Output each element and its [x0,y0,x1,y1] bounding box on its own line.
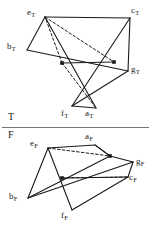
vertex-label-a_F: aF [85,132,93,141]
edge-n1_F-g_F [110,156,133,162]
vertex-label-b_F: bF [9,192,17,201]
vertex-label-e_F: eF [30,139,38,148]
node-marker-n2_T [112,60,116,64]
edge-e_F-f_F [48,148,72,210]
vertex-label-g_F: gF [136,157,144,166]
edge-b_F-g_F [28,162,133,198]
vertex-label-f_T: fT [61,109,68,118]
vertex-label-g_T: gT [131,65,139,74]
edge-f_T-a_T [72,106,96,108]
vertex-label-f_F: fF [61,211,68,220]
vertex-label-c_F: cF [129,173,137,182]
vertex-label-c_T: cT [131,6,139,15]
figure-graphic [0,0,154,233]
node-marker-group [60,60,116,180]
edge-b_T-e_T [27,17,45,50]
edge-e_F-b_F [28,148,48,198]
edge-e_F-a_F [48,145,95,148]
vertex-label-e_T: eT [27,8,35,17]
solid-edge-group [27,17,133,210]
vertex-label-a_T: aT [85,109,93,118]
section-label-true: T [8,112,14,122]
section-label-false: F [8,130,14,140]
figure-container: eTcTbTgTfTaTeFaFgFcFbFfF T F [0,0,154,233]
node-marker-n1_T [60,61,64,65]
dashed-edge-n1_T-e_T [45,17,62,63]
edge-g_T-c_T [128,18,130,71]
node-marker-n2_F [60,176,64,180]
dashed-edge-e_T-n2_T [45,17,114,62]
edge-c_F-f_F [72,177,128,210]
vertex-label-b_T: bT [7,42,15,51]
node-marker-n1_F [108,154,112,158]
edge-g_T-f_T [72,71,128,106]
edge-e_T-c_T [45,17,130,18]
